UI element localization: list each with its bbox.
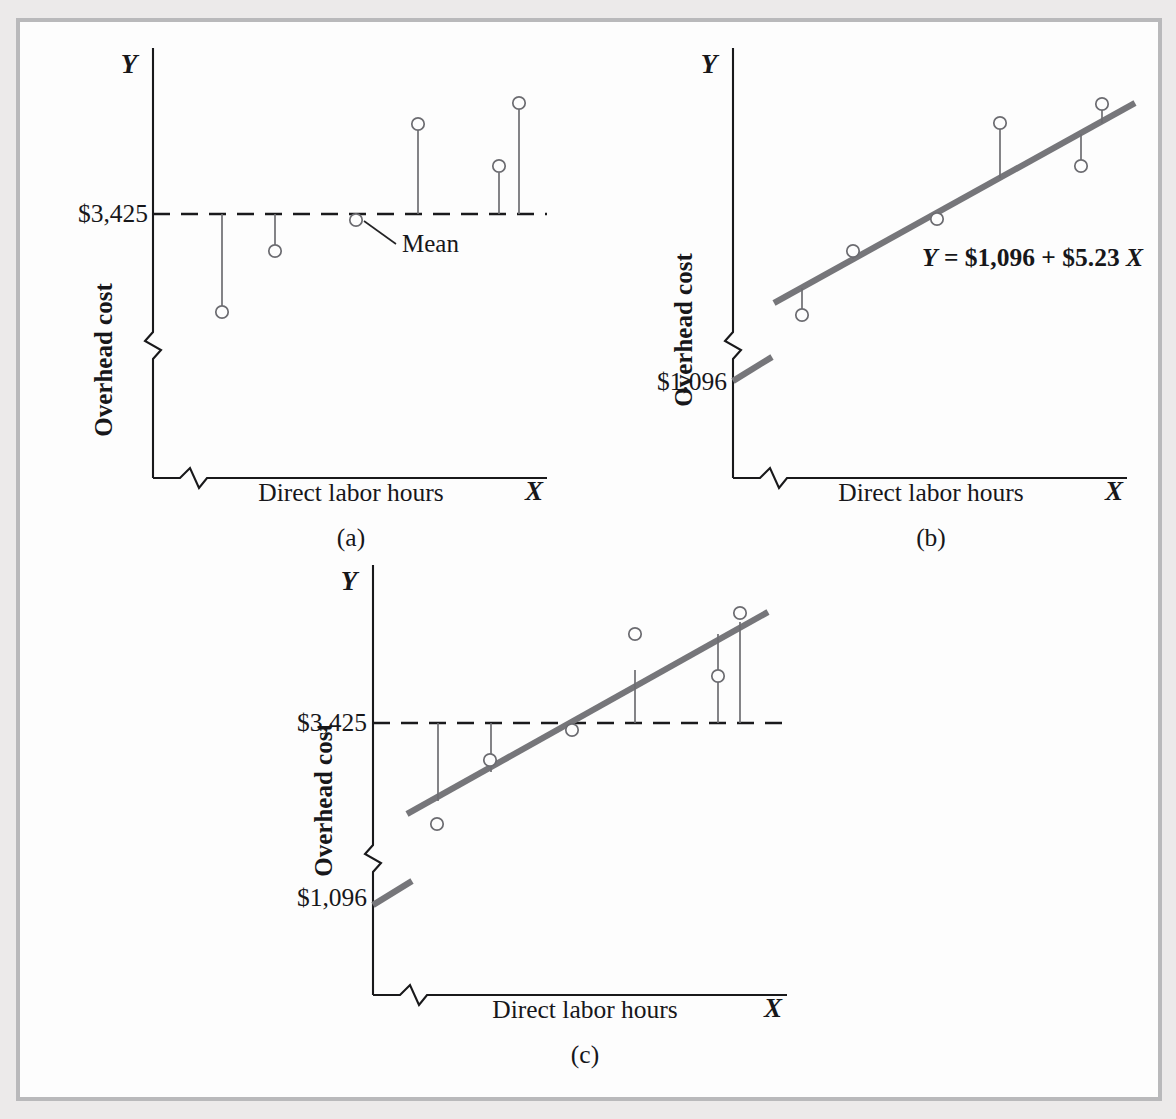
equation-intercept: $1,096 — [965, 243, 1035, 272]
panel-b-point-3 — [931, 213, 943, 225]
panel-b-y-axis — [725, 48, 741, 478]
panel-a-mean-tick-label: $3,425 — [78, 199, 148, 228]
panel-b-regression-line — [774, 103, 1135, 303]
panel-c: Y X Overhead cost Direct labor hours $3,… — [297, 565, 787, 1069]
panel-b-residual-lines — [802, 110, 1102, 309]
panel-a-caption: (a) — [337, 523, 365, 552]
panel-c-point-1 — [431, 818, 443, 830]
panel-a-point-3 — [350, 214, 362, 226]
panel-b-point-6 — [1096, 98, 1108, 110]
panel-b-regression-stub — [733, 357, 772, 381]
panel-a-x-axis-title: Direct labor hours — [258, 478, 444, 507]
panel-b-caption: (b) — [916, 523, 946, 552]
panel-c-data-points — [431, 607, 746, 830]
panel-c-x-axis-title: Direct labor hours — [492, 995, 678, 1024]
panel-b-x-axis-letter: X — [1104, 476, 1124, 506]
panel-c-y-axis-title: Overhead cost — [310, 723, 337, 877]
equation-slope: $5.23 — [1062, 243, 1119, 272]
panel-a-y-axis — [145, 48, 161, 478]
figure-root: Y X Overhead cost Direct labor hours $3,… — [0, 0, 1176, 1119]
figure-canvas: Y X Overhead cost Direct labor hours $3,… — [0, 0, 1176, 1119]
panel-c-intercept-tick-label: $1,096 — [297, 883, 367, 912]
panel-b-point-4 — [994, 117, 1006, 129]
panel-a-x-axis-letter: X — [524, 476, 544, 506]
panel-a-point-6 — [513, 97, 525, 109]
equation-plus: + — [1035, 243, 1062, 272]
panel-a-data-points — [216, 97, 525, 318]
equation-variable: X — [1125, 243, 1144, 272]
panel-c-point-6 — [734, 607, 746, 619]
panel-a-point-2 — [269, 245, 281, 257]
panel-c-point-2 — [484, 754, 496, 766]
panel-b-point-1 — [796, 309, 808, 321]
panel-a-mean-annotation: Mean — [402, 230, 459, 257]
panel-b: Y X Overhead cost Direct labor hours $1,… — [657, 48, 1144, 552]
panel-a-y-axis-title: Overhead cost — [90, 283, 117, 437]
panel-c-regression-line — [407, 612, 768, 814]
panel-c-point-4 — [629, 628, 641, 640]
panel-a-point-4 — [412, 118, 424, 130]
panel-a-point-5 — [493, 160, 505, 172]
panel-c-x-axis-letter: X — [763, 993, 783, 1023]
panel-b-intercept-tick-label: $1,096 — [657, 367, 727, 396]
panel-a-mean-leader — [364, 221, 396, 244]
panel-c-point-5 — [712, 670, 724, 682]
panel-b-point-5 — [1075, 160, 1087, 172]
panel-c-y-axis — [365, 565, 381, 995]
panel-a-y-axis-letter: Y — [121, 49, 140, 79]
panel-b-x-axis-title: Direct labor hours — [838, 478, 1024, 507]
panel-b-equation-annotation: Y = $1,096 + $5.23 X — [922, 243, 1144, 272]
panel-a-point-1 — [216, 306, 228, 318]
panel-c-point-3 — [566, 724, 578, 736]
panel-a: Y X Overhead cost Direct labor hours $3,… — [78, 48, 547, 552]
panel-b-data-points — [796, 98, 1108, 321]
panel-c-regression-stub — [373, 881, 412, 905]
equation-equals: = — [938, 243, 965, 272]
panel-b-point-2 — [847, 245, 859, 257]
panel-c-y-axis-letter: Y — [341, 566, 360, 596]
panel-b-y-axis-letter: Y — [701, 49, 720, 79]
panel-a-residual-lines — [222, 109, 519, 306]
panel-c-mean-tick-label: $3,425 — [297, 708, 367, 737]
panel-c-caption: (c) — [571, 1040, 599, 1069]
